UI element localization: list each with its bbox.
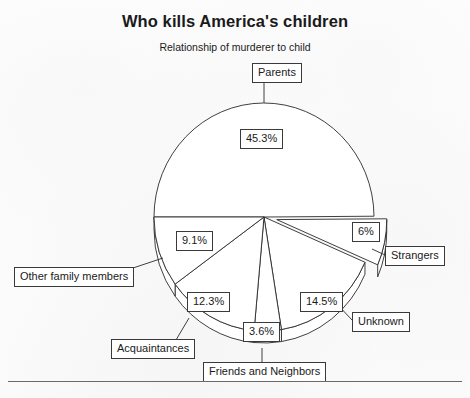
value-label-other-family-members: 9.1% bbox=[176, 231, 213, 251]
pie-graphic bbox=[0, 0, 470, 398]
leader-line-acquaintances bbox=[176, 318, 189, 340]
value-label-acquaintances: 12.3% bbox=[187, 292, 230, 312]
value-label-parents: 45.3% bbox=[240, 129, 283, 149]
callout-other-family-members: Other family members bbox=[14, 267, 134, 287]
value-label-strangers: 6% bbox=[352, 222, 380, 242]
value-label-friends-and-neighbors: 3.6% bbox=[243, 322, 280, 342]
callout-friends-and-neighbors: Friends and Neighbors bbox=[203, 362, 326, 382]
pie-chart-figure: Who kills America's children Relationshi… bbox=[0, 0, 470, 398]
callout-parents: Parents bbox=[252, 63, 302, 83]
callout-strangers: Strangers bbox=[385, 246, 445, 266]
footer-divider bbox=[8, 381, 462, 382]
pie-slice-parents bbox=[154, 103, 374, 217]
callout-unknown: Unknown bbox=[352, 312, 410, 332]
value-label-unknown: 14.5% bbox=[300, 292, 343, 312]
callout-acquaintances: Acquaintances bbox=[111, 339, 195, 359]
